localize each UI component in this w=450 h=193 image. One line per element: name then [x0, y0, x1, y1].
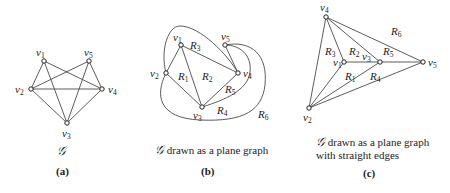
- vertex-v2: [164, 71, 168, 75]
- panel-c-label: (c): [363, 167, 375, 179]
- caption-text: drawn as a plane graph: [325, 136, 429, 148]
- region-r5: R5: [382, 45, 394, 59]
- caption-line-2: with straight edges: [316, 149, 429, 162]
- region-r2: R2: [348, 45, 360, 59]
- label-v3: v3: [62, 127, 71, 141]
- region-r2: R2: [201, 70, 213, 84]
- label-v2: v2: [303, 111, 312, 125]
- edge-v4-v5: [326, 17, 423, 62]
- panel-c-caption: 𝒢 drawn as a plane graph with straight e…: [316, 136, 429, 162]
- edge-v4-v5: [89, 61, 102, 89]
- panel-c-graph: v4 v1 v3 v5 v2 R1 R2 R3 R4 R5 R6: [303, 1, 437, 125]
- vertex-v2: [29, 87, 33, 91]
- edge-v4-v2: [309, 17, 326, 108]
- label-v4: v4: [320, 1, 329, 15]
- label-v5: v5: [84, 46, 93, 60]
- panel-b-graph: v1 v2 v3 v4 v5 R1 R2 R3 R4 R5 R6: [150, 26, 269, 123]
- label-v5: v5: [221, 30, 230, 44]
- graph-symbol: 𝒢: [316, 135, 325, 149]
- panel-b-label: (b): [201, 165, 214, 177]
- region-r3: R3: [189, 39, 201, 53]
- graph-symbol: 𝒢: [155, 143, 164, 157]
- panel-a-caption: 𝒢: [57, 145, 66, 158]
- label-v2: v2: [150, 67, 159, 81]
- vertex-v1: [342, 60, 346, 64]
- edge-v1-v2: [31, 61, 44, 89]
- vertex-v5: [421, 60, 425, 64]
- panel-b-region-labels: R1 R2 R3 R4 R5 R6: [177, 39, 269, 122]
- panel-b-caption: 𝒢 drawn as a plane graph: [155, 144, 268, 157]
- vertex-v3: [378, 60, 382, 64]
- vertex-v4: [324, 15, 328, 19]
- edge-v3-v2: [309, 62, 380, 108]
- panel-a-vertex-labels: v1 v5 v2 v4 v3: [15, 46, 117, 141]
- vertex-v4: [236, 71, 240, 75]
- label-v3: v3: [193, 109, 202, 123]
- region-r3: R3: [324, 45, 336, 59]
- label-v1: v1: [36, 46, 45, 60]
- region-r6: R6: [390, 25, 402, 39]
- edge-v2-v3: [31, 89, 67, 123]
- label-v1: v1: [173, 31, 182, 45]
- panel-a-graph: v1 v5 v2 v4 v3: [15, 46, 117, 141]
- label-v5: v5: [428, 56, 437, 70]
- panel-a-label: (a): [56, 165, 69, 177]
- edge-v4-v5: [225, 45, 238, 73]
- region-r4: R4: [216, 104, 228, 118]
- caption-line-1: 𝒢 drawn as a plane graph: [316, 136, 429, 149]
- label-v4: v4: [108, 83, 117, 97]
- edge-v1-v2: [166, 45, 181, 73]
- region-r6: R6: [257, 108, 269, 122]
- label-v3: v3: [362, 50, 371, 64]
- graph-symbol: 𝒢: [57, 144, 66, 158]
- caption-text: drawn as a plane graph: [164, 144, 268, 156]
- panel-a-edges: [31, 61, 102, 123]
- panel-c-vertex-labels: v4 v1 v3 v5 v2: [303, 1, 437, 125]
- vertex-v4: [100, 87, 104, 91]
- vertex-v3: [200, 105, 204, 109]
- label-v2: v2: [15, 83, 24, 97]
- region-r5: R5: [224, 83, 236, 97]
- region-r4: R4: [369, 70, 381, 84]
- vertex-v2: [307, 106, 311, 110]
- edge-v3-v4: [67, 89, 102, 123]
- region-r1: R1: [344, 70, 356, 84]
- region-r1: R1: [177, 70, 189, 84]
- vertex-v3: [65, 121, 69, 125]
